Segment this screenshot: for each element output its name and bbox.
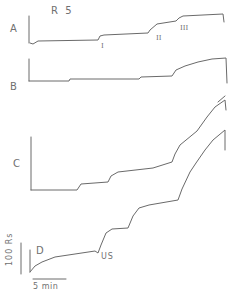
figure-title: R 5 <box>51 6 74 16</box>
vertical-scale-label: 100 Rs <box>6 232 14 266</box>
panel-label-a: A <box>10 24 18 34</box>
marker-iii: III <box>180 25 188 32</box>
horizontal-scale-label: 5 min <box>33 283 58 291</box>
trace-b <box>29 58 227 83</box>
panel-label-b: B <box>10 82 18 92</box>
trace-d <box>30 130 225 272</box>
panel-label-d: D <box>36 246 45 256</box>
trace-a <box>30 14 224 44</box>
marker-us: US <box>101 253 114 261</box>
marker-i: I <box>101 43 104 50</box>
recording-figure: R 5 A B C D I II III US 100 Rs 5 min <box>0 0 234 295</box>
trace-c <box>31 100 226 190</box>
marker-ii: II <box>156 35 162 42</box>
panel-label-c: C <box>13 159 21 169</box>
